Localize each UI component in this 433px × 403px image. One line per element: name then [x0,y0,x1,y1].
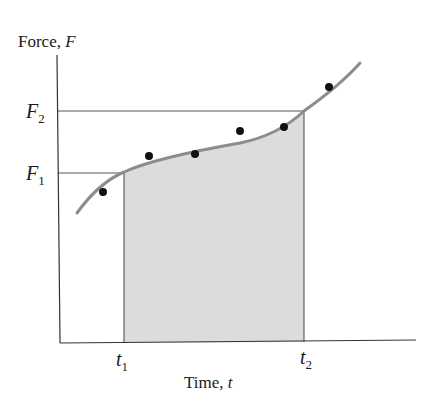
data-point [236,127,244,135]
y-tick-f1: F1 [25,162,45,188]
data-point [191,150,199,158]
data-point [145,152,153,160]
y-axis [57,55,60,343]
data-point [99,188,107,196]
x-tick-t2: t2 [300,346,312,372]
x-axis-label: Time, t [184,373,234,392]
shaded-impulse-area [124,111,304,343]
x-tick-t1: t1 [116,348,128,374]
data-point [280,123,288,131]
y-axis-label: Force, F [18,32,76,51]
impulse-chart: Force, F F2 F1 t1 t2 Time, t [0,0,433,403]
data-point [325,83,333,91]
y-tick-f2: F2 [25,100,45,126]
